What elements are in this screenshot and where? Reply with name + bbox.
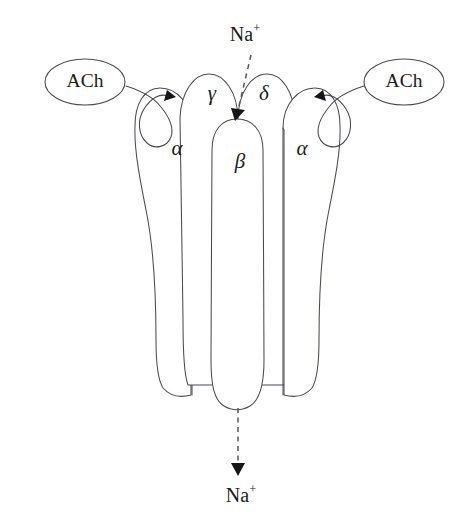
receptor-diagram: ACh ACh Na+ Na+ α γ β δ α: [0, 0, 471, 530]
na-efflux-arrowhead: [231, 463, 245, 476]
receptor-diagram-canvas: ACh ACh Na+ Na+ α γ β δ α: [0, 0, 471, 530]
subunit-alpha-right-body: [283, 88, 340, 396]
subunit-gamma-label: γ: [208, 81, 217, 105]
ach-left-label: ACh: [67, 70, 104, 91]
na-bottom-symbol: Na: [226, 484, 249, 506]
subunit-alpha-right-label: α: [296, 136, 308, 160]
subunit-delta-label: δ: [259, 81, 270, 105]
na-top-charge: +: [253, 21, 260, 35]
subunit-alpha-left-label: α: [171, 136, 183, 160]
na-bottom-label: Na+: [226, 482, 256, 506]
na-top-label: Na+: [230, 21, 260, 45]
na-bottom-charge: +: [249, 482, 256, 496]
ach-right-label: ACh: [386, 70, 423, 91]
na-top-symbol: Na: [230, 23, 253, 45]
subunit-beta-label: β: [234, 149, 246, 173]
